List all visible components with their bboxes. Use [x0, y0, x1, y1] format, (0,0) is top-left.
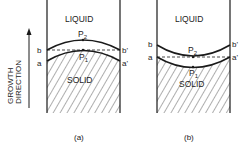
- point-p2-b: [192, 56, 194, 58]
- liquid-label-b: LIQUID: [175, 14, 203, 24]
- p2-label-a: P2: [78, 29, 88, 40]
- axis-label-line2: DIRECTION: [14, 60, 23, 104]
- label-a-right-b: a': [232, 53, 238, 62]
- point-p1-a: [82, 49, 84, 51]
- caption-b: (b): [184, 133, 194, 142]
- label-a-right-a: a': [122, 59, 128, 68]
- caption-a: (a): [74, 133, 84, 142]
- arrowhead-icon: [27, 28, 32, 35]
- panel-b: LIQUID SOLID P2 P1 b a b' a' (b): [148, 0, 238, 142]
- liquid-label-a: LIQUID: [65, 14, 93, 24]
- solidification-interface-diagram: GROWTH DIRECTION LIQUID SOLID P2 P1 b a …: [0, 0, 243, 151]
- label-b-right-a: b': [122, 46, 128, 55]
- label-a-left-b: a: [148, 53, 153, 62]
- label-a-left-a: a: [37, 59, 42, 68]
- label-b-right-b: b': [232, 40, 238, 49]
- solid-label-b: SOLID: [179, 79, 205, 89]
- label-b-left-a: b: [37, 46, 42, 55]
- growth-direction-indicator: GROWTH DIRECTION: [6, 28, 32, 108]
- label-b-left-b: b: [148, 40, 153, 49]
- interface-curve-upper-a: [47, 40, 120, 50]
- solid-label-a: SOLID: [67, 75, 93, 85]
- p2-label-b: P2: [188, 45, 198, 56]
- panel-a: LIQUID SOLID P2 P1 b a b' a' (a): [37, 0, 128, 142]
